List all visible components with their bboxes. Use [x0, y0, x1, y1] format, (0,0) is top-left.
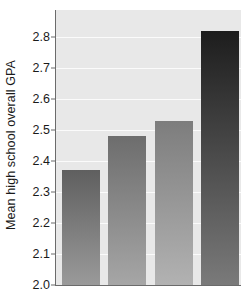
- y-axis-label-container: Mean high school overall GPA: [0, 0, 22, 290]
- y-axis-tick-label: 2.8: [33, 30, 50, 44]
- y-axis-tick-mark: [51, 37, 56, 38]
- y-axis-tick-mark: [51, 99, 56, 100]
- y-axis-tick-mark: [51, 223, 56, 224]
- y-axis-tick-mark: [51, 254, 56, 255]
- plot-area: [56, 10, 241, 285]
- y-axis-tick-label: 2.4: [33, 154, 50, 168]
- y-axis-tick-mark: [51, 192, 56, 193]
- y-axis-tick-label: 2.1: [33, 247, 50, 261]
- y-axis-tick-label: 2.0: [33, 278, 50, 292]
- y-axis-tick-mark: [51, 68, 56, 69]
- y-axis-tick-label: 2.5: [33, 123, 50, 137]
- y-axis-tick-label: 2.6: [33, 92, 50, 106]
- x-axis-line: [55, 285, 241, 286]
- y-axis-tick-mark: [51, 161, 56, 162]
- y-axis-tick-label: 2.7: [33, 61, 50, 75]
- y-axis-tick-mark: [51, 285, 56, 286]
- bar-chart-figure: Mean high school overall GPA 2.02.12.22.…: [0, 0, 250, 303]
- bar-2: [155, 121, 193, 285]
- y-axis-label: Mean high school overall GPA: [4, 60, 18, 230]
- y-axis-tick-labels: 2.02.12.22.32.42.52.62.72.8: [22, 0, 50, 303]
- y-axis-tick-label: 2.2: [33, 216, 50, 230]
- bar-1: [108, 136, 146, 285]
- bar-3: [201, 31, 239, 285]
- bar-0: [62, 170, 100, 285]
- y-axis-tick-mark: [51, 130, 56, 131]
- y-axis-tick-label: 2.3: [33, 185, 50, 199]
